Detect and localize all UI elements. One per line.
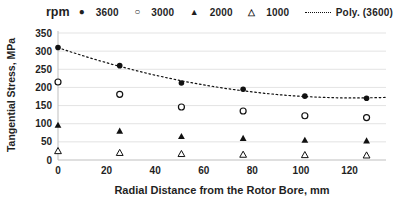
y-tick-label: 0 — [46, 155, 52, 166]
x-tick-label: 40 — [150, 165, 162, 176]
x-tick-label: 80 — [247, 165, 259, 176]
y-tick-label: 50 — [41, 136, 53, 147]
data-point-open-triangle — [178, 150, 185, 156]
y-tick-label: 300 — [35, 46, 52, 57]
plot-area: 050100150200250300350020406080100120 — [0, 0, 395, 215]
x-tick-label: 20 — [101, 165, 113, 176]
data-point-filled-circle — [302, 93, 308, 99]
data-point-open-triangle — [116, 149, 123, 155]
data-point-filled-circle — [240, 86, 246, 92]
data-point-filled-triangle — [55, 122, 62, 128]
data-point-open-triangle — [363, 152, 370, 158]
y-tick-label: 200 — [35, 82, 52, 93]
x-tick-label: 60 — [198, 165, 210, 176]
x-tick-label: 100 — [293, 165, 310, 176]
data-point-open-circle — [178, 104, 184, 110]
x-tick-label: 120 — [341, 165, 358, 176]
data-point-filled-triangle — [178, 133, 185, 139]
data-point-open-circle — [55, 79, 61, 85]
y-tick-label: 100 — [35, 118, 52, 129]
data-point-open-circle — [117, 91, 123, 97]
data-point-open-triangle — [301, 152, 308, 158]
data-point-open-triangle — [55, 148, 62, 154]
data-point-filled-circle — [55, 45, 61, 51]
data-point-filled-circle — [364, 96, 370, 102]
trendline-path — [58, 48, 386, 98]
data-point-filled-triangle — [116, 128, 123, 134]
data-point-filled-circle — [117, 63, 123, 69]
data-point-filled-triangle — [301, 137, 308, 143]
x-axis-title: Radial Distance from the Rotor Bore, mm — [58, 184, 386, 200]
stress-chart: rpm ● 3600 ○ 3000 ▲ 2000 △ 1000 Poly. (3… — [0, 0, 395, 215]
y-tick-label: 250 — [35, 64, 52, 75]
data-point-filled-triangle — [363, 137, 370, 143]
data-point-open-circle — [364, 115, 370, 121]
data-point-filled-circle — [179, 80, 185, 86]
x-tick-label: 0 — [55, 165, 61, 176]
data-point-open-triangle — [240, 151, 247, 157]
data-point-open-circle — [240, 108, 246, 114]
y-tick-label: 350 — [35, 28, 52, 39]
data-point-filled-triangle — [240, 135, 247, 141]
y-tick-label: 150 — [35, 100, 52, 111]
data-point-open-circle — [302, 113, 308, 119]
